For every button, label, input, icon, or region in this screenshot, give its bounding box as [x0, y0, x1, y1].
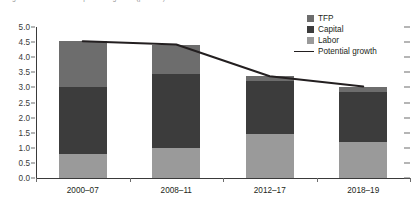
y-axis-tick-label: 2.5 [0, 98, 30, 107]
x-axis-tick-label: 2018–19 [347, 186, 379, 195]
y-axis-tick-label: 3.5 [0, 68, 30, 77]
y-axis-tick-mark [31, 57, 35, 58]
x-axis-tick-mark [223, 178, 224, 182]
y-axis-tick-mark [31, 27, 35, 28]
x-axis-tick-mark [410, 178, 411, 182]
y-axis-tick-label: 2.0 [0, 113, 30, 122]
legend-item-tfp: TFP [307, 13, 377, 24]
y-axis-tick-mark [31, 102, 35, 103]
y-axis-tick-mark [31, 132, 35, 133]
legend-swatch-labor-icon [307, 37, 314, 44]
x-axis-tick-label: 2008–11 [161, 186, 192, 195]
legend-label-labor: Labor [318, 36, 339, 45]
y-axis-tick-mark-right [404, 102, 410, 103]
y-axis-tick-mark-right [404, 87, 410, 88]
potential-growth-chart: Figure: Contributions to potential growt… [0, 0, 416, 203]
x-axis-tick-label: 2012–17 [254, 186, 286, 195]
y-axis-tick-label: 1.5 [0, 128, 30, 137]
y-axis-tick-label: 4.0 [0, 53, 30, 62]
legend-item-labor: Labor [307, 35, 377, 46]
legend-swatch-tfp-icon [307, 15, 314, 22]
legend-swatch-capital-icon [307, 26, 314, 33]
y-axis-tick-label: 1.0 [0, 143, 30, 152]
y-axis-tick-label: 4.5 [0, 38, 30, 47]
y-axis-tick-mark-right [404, 27, 410, 28]
legend-label-capital: Capital [318, 25, 344, 34]
legend-label-tfp: TFP [318, 14, 333, 23]
x-axis-tick-mark [317, 178, 318, 182]
y-axis-tick-mark-right [404, 72, 410, 73]
y-axis-tick-mark-right [404, 42, 410, 43]
y-axis-tick-mark [31, 178, 35, 179]
y-axis-tick-mark [31, 147, 35, 148]
y-axis-tick-mark [31, 42, 35, 43]
legend-item-capital: Capital [307, 24, 377, 35]
x-axis-tick-mark [36, 178, 37, 182]
y-axis-tick-mark-right [404, 147, 410, 148]
y-axis-labels: 5.04.54.03.53.02.52.01.51.00.50.0 [0, 0, 30, 203]
y-axis-tick-mark [31, 72, 35, 73]
y-axis-tick-mark-right [404, 178, 410, 179]
y-axis-tick-mark-right [404, 162, 410, 163]
legend-item-potential-growth: Potential growth [307, 46, 377, 57]
y-axis-tick-mark [31, 162, 35, 163]
y-axis-tick-mark-right [404, 117, 410, 118]
y-axis-tick-mark-right [404, 132, 410, 133]
chart-legend: TFP Capital Labor Potential growth [307, 13, 377, 57]
y-axis-tick-mark [31, 117, 35, 118]
legend-label-potential-growth: Potential growth [318, 47, 377, 56]
y-axis-tick-mark [31, 87, 35, 88]
y-axis-tick-label: 0.5 [0, 158, 30, 167]
y-axis-tick-mark-right [404, 57, 410, 58]
legend-line-marker-icon [294, 51, 314, 52]
x-axis-tick-mark [130, 178, 131, 182]
y-axis-tick-label: 5.0 [0, 23, 30, 32]
y-axis-tick-label: 3.0 [0, 83, 30, 92]
x-axis-tick-label: 2000–07 [67, 186, 99, 195]
y-axis-tick-label: 0.0 [0, 174, 30, 183]
